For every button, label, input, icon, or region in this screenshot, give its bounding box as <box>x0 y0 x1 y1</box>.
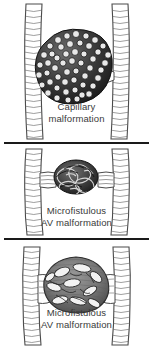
capillary-nidus <box>35 29 112 104</box>
caption-line-2: AV malformation <box>0 319 153 331</box>
caption-line-1: Microfistulous <box>0 307 153 319</box>
caption-macrofistulous-av-malformation: Microfistulous AV malformation <box>0 307 153 330</box>
panel-microfistulous-av-malformation: Microfistulous AV malformation <box>0 145 153 237</box>
panel-divider-2 <box>4 238 149 240</box>
microfistulous-nidus <box>54 160 98 196</box>
caption-capillary-malformation: Capillary malformation <box>0 101 153 124</box>
caption-line-2: AV malformation <box>0 217 153 229</box>
panel-macrofistulous-av-malformation: Microfistulous AV malformation <box>0 241 153 347</box>
caption-line-1: Microfistulous <box>0 205 153 217</box>
vascular-malformation-figure: Capillary malformation <box>0 0 153 347</box>
caption-line-2: malformation <box>0 113 153 125</box>
panel-divider-1 <box>4 142 149 144</box>
caption-microfistulous-av-malformation: Microfistulous AV malformation <box>0 205 153 228</box>
panel-capillary-malformation: Capillary malformation <box>0 0 153 143</box>
caption-line-1: Capillary <box>0 101 153 113</box>
macrofistulous-av-malformation-illustration <box>0 241 153 347</box>
